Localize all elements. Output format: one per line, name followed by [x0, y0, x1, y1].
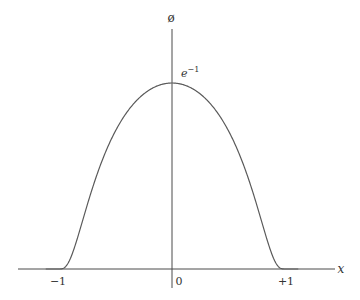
x-axis-label: x: [338, 262, 345, 276]
tick-label-pos1: +1: [278, 275, 294, 288]
y-axis-label: ø: [167, 11, 174, 25]
peak-label-sup: −1: [188, 65, 200, 74]
tick-label-zero: 0: [176, 275, 183, 288]
peak-label: e−1: [181, 65, 199, 80]
bump-function-plot: ø x e−1 −1 0 +1: [0, 0, 360, 300]
tick-label-neg1: −1: [50, 275, 66, 288]
